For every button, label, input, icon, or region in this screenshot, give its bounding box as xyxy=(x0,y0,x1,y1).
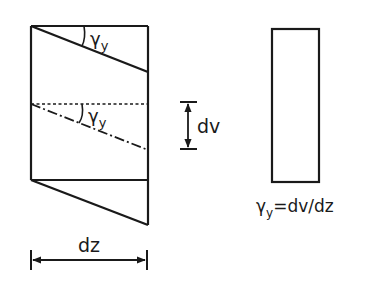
gamma-angle-arc-top xyxy=(82,26,85,46)
dv-label: dv xyxy=(197,115,220,137)
gamma-angle-arc-mid xyxy=(79,104,83,123)
shear-strain-formula: γy=dv/dz xyxy=(256,196,334,220)
dz-label: dz xyxy=(78,234,100,256)
shear-strain-diagram: γy γy dv dz γy=dv/dz xyxy=(0,0,372,286)
undeformed-element xyxy=(272,29,319,182)
gamma-label-mid: γy xyxy=(88,105,107,130)
bottom-sheared-edge xyxy=(31,180,148,225)
dv-dimension xyxy=(180,102,197,149)
